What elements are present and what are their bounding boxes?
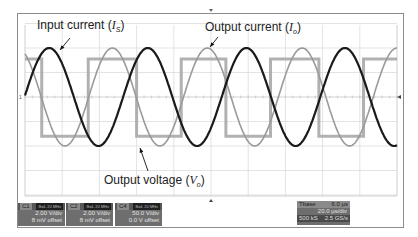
volts-per-div: 2.00 V/div [66, 210, 113, 217]
timebase-label: Tbase [299, 201, 316, 208]
bandwidth-badge: BwL 20 MHz [133, 203, 160, 210]
bandwidth-badge: BwL 20 MHz [36, 203, 63, 210]
channel-id: C2 [68, 203, 80, 210]
offset: 0.0 V offset [115, 217, 162, 224]
label-text: Output current [205, 20, 282, 34]
label-text: Output voltage [104, 173, 182, 187]
trigger-position-bottom [209, 199, 213, 202]
offset: 8 mV offset [66, 217, 113, 224]
channel-readout-c1[interactable]: C1BwL 20 MHz 2.00 V/div 8 mV offset [18, 203, 65, 226]
volts-per-div: 2.00 V/div [18, 210, 65, 217]
trigger-marker [397, 95, 401, 99]
ground-marker: 1 [19, 94, 22, 100]
channel-readout-c4[interactable]: C4BwL 20 MHz 50.0 V/div 0.0 V offset [115, 203, 162, 226]
label-output-current: Output current (Io) [205, 20, 301, 35]
channel-readout-c2[interactable]: C2BwL 20 MHz 2.00 V/div 8 mV offset [66, 203, 113, 226]
label-input-current: Input current (IS) [37, 18, 124, 33]
label-subscript: S [116, 26, 121, 33]
label-subscript: o [197, 181, 201, 188]
trigger-position-top [209, 9, 213, 12]
label-symbol: V [189, 173, 196, 187]
offset: 8 mV offset [18, 217, 65, 224]
label-text: Input current [37, 18, 104, 32]
volts-per-div: 50.0 V/div [115, 210, 162, 217]
label-subscript: o [293, 28, 297, 35]
channel-id: C4 [117, 203, 129, 210]
bandwidth-badge: BwL 20 MHz [84, 203, 111, 210]
sample-count: 500 kS [299, 215, 318, 222]
timebase-readout[interactable]: Tbase6.0 µs 20.0 µs/div 500 kS2.5 GS/s [297, 201, 350, 225]
sample-rate: 2.5 GS/s [325, 215, 348, 222]
channel-id: C1 [20, 203, 32, 210]
waveform-plot: 1 [0, 0, 418, 237]
arrow-output-voltage-head [140, 148, 144, 153]
time-per-div: 20.0 µs/div [297, 208, 350, 215]
label-output-voltage: Output voltage (Vo) [104, 173, 205, 188]
timebase-value: 6.0 µs [332, 201, 348, 208]
oscilloscope-screen: 1 Input current (IS) Output current (Io)… [0, 0, 418, 237]
